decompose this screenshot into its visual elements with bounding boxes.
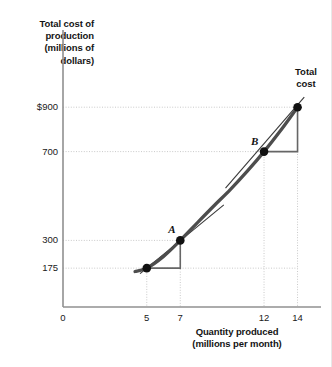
axes <box>63 30 321 307</box>
curve-path-total-cost <box>135 107 298 271</box>
x-tick-label: 5 <box>133 312 161 323</box>
y-tick-label: 175 <box>10 262 58 273</box>
total-cost-curve <box>135 107 298 271</box>
point-label-B: B <box>251 135 258 147</box>
y-tick-label: 700 <box>10 146 58 157</box>
point-label-A: A <box>168 223 175 235</box>
x-tick-label: 7 <box>166 312 194 323</box>
data-point-B <box>260 147 269 156</box>
data-point-A <box>176 236 185 245</box>
x-tick-label: 0 <box>49 312 77 323</box>
y-tick-label: 300 <box>10 234 58 245</box>
tangent-line <box>226 97 305 188</box>
gridlines <box>63 107 298 307</box>
x-tick-label: 14 <box>284 312 312 323</box>
chart-figure: Total cost of production (millions of do… <box>0 0 332 367</box>
tangent-lines <box>140 97 304 273</box>
data-point-marker <box>142 264 151 273</box>
y-tick-label: $900 <box>10 101 58 112</box>
data-point-marker <box>293 103 302 112</box>
x-tick-label: 12 <box>250 312 278 323</box>
